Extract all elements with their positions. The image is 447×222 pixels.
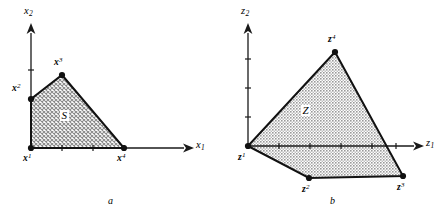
vertex-dot-x4 <box>121 145 127 151</box>
set-label-z: Z <box>301 105 310 116</box>
axis-label-z1: z1 <box>426 138 434 149</box>
vertex-dot-z4 <box>332 49 338 55</box>
vertex-label-x4: x4 <box>117 153 125 164</box>
vertex-dot-x3 <box>59 72 65 78</box>
vertex-label-z1: z1 <box>238 152 245 163</box>
axis-z1-arrowhead <box>413 142 424 151</box>
axis-z2-arrowhead <box>244 23 253 34</box>
region-s <box>31 75 124 148</box>
axis-label-x1: x1 <box>196 140 205 151</box>
set-label-s: S <box>60 110 69 121</box>
caption-b: b <box>330 196 335 206</box>
vertex-dot-z1 <box>245 143 251 149</box>
vertex-dot-z2 <box>306 175 312 181</box>
panel-b: z1 z2 z1 z2 z3 z4 Z b <box>224 0 447 222</box>
panel-b-graphic <box>224 0 447 222</box>
vertex-dot-x2 <box>28 96 34 102</box>
vertex-label-x1: x1 <box>23 153 31 164</box>
vertex-label-x2: x2 <box>12 83 20 94</box>
axis-x1-arrowhead <box>183 144 194 153</box>
axis-x2-arrowhead <box>27 23 36 34</box>
axis-label-x2: x2 <box>24 6 33 17</box>
axis-label-z2: z2 <box>241 6 249 17</box>
panel-a: x1 x2 x1 x2 x3 x4 S a <box>0 0 224 222</box>
vertex-label-x3: x3 <box>54 57 62 68</box>
vertex-dot-x1 <box>28 145 34 151</box>
vertex-dot-z3 <box>400 173 406 179</box>
vertex-label-z3: z3 <box>397 182 404 193</box>
figure-root: x1 x2 x1 x2 x3 x4 S a <box>0 0 447 222</box>
caption-a: a <box>108 196 113 206</box>
panel-a-graphic <box>0 0 224 222</box>
vertex-label-z4: z4 <box>328 34 335 45</box>
vertex-label-z2: z2 <box>302 184 309 195</box>
